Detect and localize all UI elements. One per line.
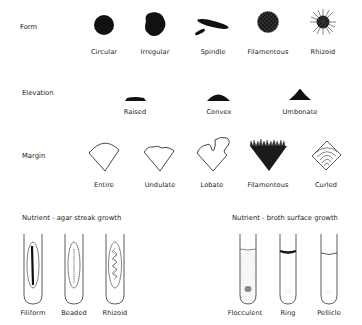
elevation-raised-shape [125, 97, 146, 101]
margin-entire-shape [89, 143, 119, 171]
margin-lobate-shape [197, 137, 229, 171]
agar-beaded-tube [65, 234, 83, 304]
elevation-convex-shape [207, 95, 230, 102]
elevation-umbonate-shape [289, 89, 311, 100]
broth-flocculent-tube [240, 234, 256, 304]
margin-undulate-shape [144, 146, 174, 171]
broth-ring-tube [280, 234, 296, 304]
agar-filiform-tube [24, 234, 42, 304]
agar-rhizoid-tube [106, 234, 124, 304]
colony-morphology-diagram [0, 0, 362, 325]
margin-curled-shape [312, 141, 341, 170]
form-irregular-shape [145, 12, 165, 36]
form-circular-shape [94, 15, 114, 35]
form-filamentous-shape [258, 12, 279, 33]
margin-filamentous-shape [250, 139, 287, 171]
broth-pellicle-tube [321, 234, 337, 304]
form-spindle-shape [194, 17, 229, 36]
form-rhizoid-shape [310, 9, 336, 35]
